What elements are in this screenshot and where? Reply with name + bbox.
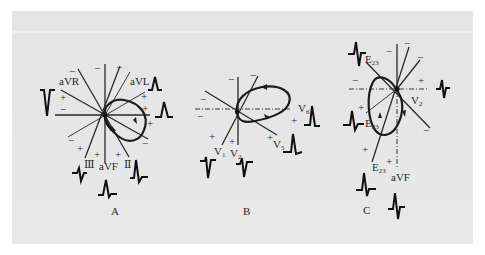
label-avf: aVF bbox=[99, 160, 118, 172]
plus-sign: + bbox=[229, 135, 235, 147]
plus-sign: + bbox=[60, 91, 66, 103]
minus-sign: − bbox=[68, 134, 74, 146]
minus-sign: − bbox=[386, 45, 392, 57]
plus-sign: + bbox=[209, 130, 215, 142]
minus-sign: − bbox=[352, 74, 358, 86]
minus-sign: − bbox=[116, 61, 122, 73]
plus-sign: + bbox=[386, 155, 392, 167]
plus-sign: + bbox=[291, 114, 297, 126]
minus-sign: − bbox=[250, 69, 256, 81]
plus-sign: + bbox=[362, 143, 368, 155]
panel-caption-c: C bbox=[363, 204, 370, 216]
plus-sign: + bbox=[142, 102, 148, 114]
plus-sign: + bbox=[267, 131, 273, 143]
minus-sign: − bbox=[94, 62, 100, 74]
minus-sign: − bbox=[404, 37, 410, 49]
label-ii: Ⅱ bbox=[124, 158, 131, 170]
plus-sign: + bbox=[147, 117, 153, 129]
panel-caption-a: A bbox=[111, 205, 119, 217]
vectorcardiogram-figure: aVR aVL Ⅲ aVF Ⅱ A − − − + − + + + − − + … bbox=[0, 0, 485, 255]
label-avf: aVF bbox=[391, 171, 410, 183]
origin-dot bbox=[103, 113, 108, 118]
plus-sign: + bbox=[115, 148, 121, 160]
plus-sign: + bbox=[77, 142, 83, 154]
label-avl: aVL bbox=[130, 75, 150, 87]
minus-sign: − bbox=[423, 124, 429, 136]
panel-caption-b: B bbox=[243, 205, 250, 217]
minus-sign: − bbox=[200, 93, 206, 105]
minus-sign: − bbox=[142, 137, 148, 149]
minus-sign: − bbox=[69, 65, 75, 77]
origin-dot bbox=[395, 87, 400, 92]
plus-sign: + bbox=[141, 90, 147, 102]
minus-sign: − bbox=[197, 110, 203, 122]
minus-sign: − bbox=[228, 73, 234, 85]
origin-dot bbox=[235, 110, 239, 114]
minus-sign: − bbox=[417, 51, 423, 63]
plus-sign: + bbox=[94, 148, 100, 160]
plus-sign: + bbox=[358, 101, 364, 113]
plus-sign: + bbox=[418, 74, 424, 86]
minus-sign: − bbox=[60, 103, 66, 115]
